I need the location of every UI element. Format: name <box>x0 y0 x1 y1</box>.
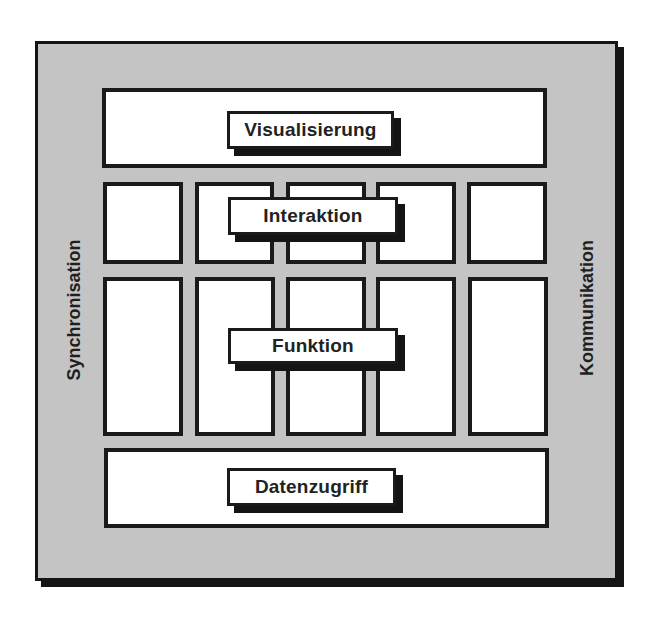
synchronisation-side-label: Synchronisation <box>64 239 85 380</box>
interaktion-column-box-1 <box>103 182 183 264</box>
interaktion-column-box-5 <box>467 182 547 264</box>
funktion-column-box-5 <box>468 277 548 436</box>
interaktion-label: Interaktion <box>228 197 398 235</box>
funktion-label: Funktion <box>228 328 398 364</box>
visualisierung-label: Visualisierung <box>227 111 394 149</box>
datenzugriff-label: Datenzugriff <box>227 468 396 506</box>
kommunikation-side-label: Kommunikation <box>577 240 598 376</box>
funktion-column-box-1 <box>103 277 183 436</box>
